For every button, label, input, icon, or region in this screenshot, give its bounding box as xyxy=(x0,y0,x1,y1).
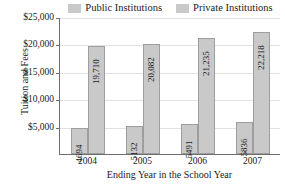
bar-groups: 469419,7102004513220,0822005549121,23520… xyxy=(60,18,280,154)
y-tick-label: $25,000 xyxy=(23,13,54,23)
bar-private[interactable]: 19,710 xyxy=(88,46,105,154)
chart-legend: Public Institutions Private Institutions xyxy=(58,1,283,15)
bar-private[interactable]: 21,235 xyxy=(198,38,215,154)
x-tick-label: 2007 xyxy=(225,157,280,167)
y-tick-label: $5,000 xyxy=(28,123,54,133)
x-axis-title: Ending Year in the School Year xyxy=(59,170,280,180)
bar-public[interactable]: 5132 xyxy=(126,126,143,154)
bar-private[interactable]: 22,218 xyxy=(253,32,270,154)
x-tick-label: 2004 xyxy=(60,157,115,167)
bar-group: 583622,2182007 xyxy=(225,18,280,154)
legend-swatch-private xyxy=(176,4,189,13)
legend-swatch-public xyxy=(68,4,81,13)
bar-public[interactable]: 5836 xyxy=(236,122,253,154)
legend-label-public: Public Institutions xyxy=(85,3,162,14)
bar-value-label: 5836 xyxy=(240,139,249,157)
y-tick-label: $20,000 xyxy=(23,41,54,51)
legend-item-private: Private Institutions xyxy=(176,3,273,14)
bar-group: 469419,7102004 xyxy=(60,18,115,154)
bar-value-label: 19,710 xyxy=(92,59,101,84)
y-tick-label: $15,000 xyxy=(23,68,54,78)
bar-group: 549121,2352006 xyxy=(170,18,225,154)
y-tick-label: $10,000 xyxy=(23,95,54,105)
x-tick-label: 2005 xyxy=(115,157,170,167)
bar-value-label: 20,082 xyxy=(147,57,156,82)
bar-chart: Public Institutions Private Institutions… xyxy=(0,0,285,186)
x-tick-label: 2006 xyxy=(170,157,225,167)
legend-label-private: Private Institutions xyxy=(193,3,273,14)
bar-public[interactable]: 5491 xyxy=(181,124,198,154)
legend-item-public: Public Institutions xyxy=(68,3,162,14)
bar-value-label: 22,218 xyxy=(257,45,266,70)
bar-group: 513220,0822005 xyxy=(115,18,170,154)
bar-private[interactable]: 20,082 xyxy=(143,44,160,154)
plot-area: $5,000$10,000$15,000$20,000$25,000 46941… xyxy=(59,18,280,155)
bar-value-label: 21,235 xyxy=(202,51,211,76)
bar-public[interactable]: 4694 xyxy=(71,128,88,154)
